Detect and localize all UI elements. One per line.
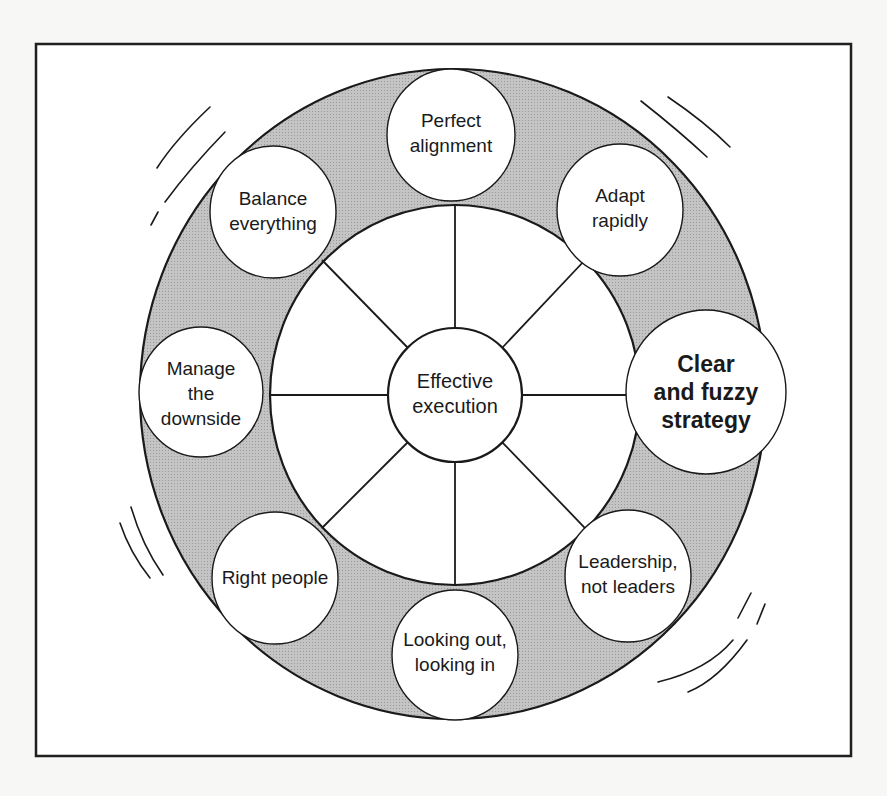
center-node-effective-execution: Effective execution	[388, 328, 522, 462]
node-perfect-alignment: Perfect alignment	[387, 69, 515, 201]
node-clear-and-fuzzy-strategy: Clear and fuzzy strategy	[626, 310, 786, 474]
center-label-line-1: Effective	[417, 370, 493, 392]
center-label-line-2: execution	[412, 395, 498, 417]
node-leadership-not-leaders: Leadership, not leaders	[565, 510, 691, 642]
node-label-line: Clear	[677, 351, 735, 377]
node-label-line: and fuzzy	[654, 379, 759, 405]
node-label-line: strategy	[661, 407, 751, 433]
node-label-line: Manage	[167, 358, 236, 379]
node-label-line: alignment	[410, 135, 493, 156]
node-label-line: looking in	[415, 654, 495, 675]
node-manage-the-downside: Manage the downside	[139, 327, 263, 457]
node-label-line: not leaders	[581, 576, 675, 597]
node-label-line: the	[188, 383, 214, 404]
node-balance-everything: Balance everything	[210, 146, 336, 278]
node-label-line: Adapt	[595, 185, 645, 206]
node-label-line: Right people	[222, 567, 329, 588]
node-label-line: Leadership,	[578, 551, 677, 572]
node-label-line: Perfect	[421, 110, 482, 131]
execution-wheel-diagram: Effective execution Perfect alignment Ad…	[0, 0, 887, 796]
node-label-line: rapidly	[592, 210, 648, 231]
node-adapt-rapidly: Adapt rapidly	[557, 144, 683, 276]
node-label-line: Looking out,	[403, 629, 507, 650]
node-label-line: downside	[161, 408, 241, 429]
node-looking-out-looking-in: Looking out, looking in	[392, 590, 518, 720]
node-label-line: everything	[229, 213, 317, 234]
node-right-people: Right people	[212, 512, 338, 644]
node-label-line: Balance	[239, 188, 308, 209]
